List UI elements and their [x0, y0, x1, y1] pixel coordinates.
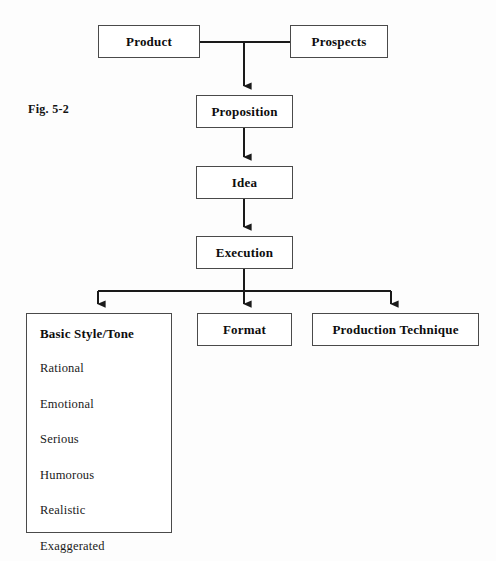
node-proposition-label: Proposition [211, 104, 277, 120]
basic-style-tone-title: Basic Style/Tone [40, 326, 171, 342]
list-item: Rational [40, 361, 171, 376]
node-production-technique-label: Production Technique [332, 322, 458, 338]
node-format-label: Format [223, 322, 266, 338]
node-prospects[interactable]: Prospects [290, 25, 388, 58]
list-item: Emotional [40, 397, 171, 412]
list-item: Serious [40, 432, 171, 447]
node-format[interactable]: Format [197, 313, 292, 346]
list-item: Exaggerated [40, 539, 171, 554]
node-execution-label: Execution [216, 245, 273, 261]
node-prospects-label: Prospects [312, 34, 367, 50]
node-idea-label: Idea [232, 175, 257, 191]
figure-canvas: Fig. 5-2 Product Prospects Proposition I… [0, 0, 496, 561]
list-item: Realistic [40, 503, 171, 518]
node-execution[interactable]: Execution [196, 236, 293, 269]
node-production-technique[interactable]: Production Technique [312, 313, 479, 346]
node-product-label: Product [126, 34, 172, 50]
list-item: Humorous [40, 468, 171, 483]
node-product[interactable]: Product [98, 25, 200, 58]
node-idea[interactable]: Idea [196, 166, 293, 199]
node-basic-style-tone[interactable]: Basic Style/Tone Rational Emotional Seri… [26, 313, 172, 533]
node-proposition[interactable]: Proposition [196, 95, 293, 128]
figure-label: Fig. 5-2 [28, 102, 69, 117]
